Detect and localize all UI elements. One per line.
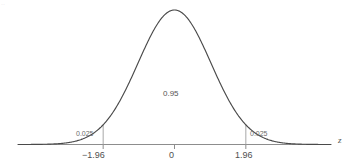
x-tick-label-positive: 1.96 bbox=[235, 151, 253, 160]
x-axis-name-label: z bbox=[338, 136, 342, 145]
x-tick-label-negative: −1.96 bbox=[82, 151, 105, 160]
left-tail-area-label: 0.025 bbox=[76, 130, 94, 137]
normal-curve-plot bbox=[0, 0, 351, 166]
normal-distribution-figure: ·· 0.025 0.95 0.025 −1.96 0 1.96 z bbox=[0, 0, 351, 166]
right-tail-area-label: 0.025 bbox=[250, 130, 268, 137]
bell-curve-path bbox=[18, 10, 331, 145]
x-tick-label-zero: 0 bbox=[169, 151, 174, 160]
central-area-label: 0.95 bbox=[163, 90, 179, 98]
